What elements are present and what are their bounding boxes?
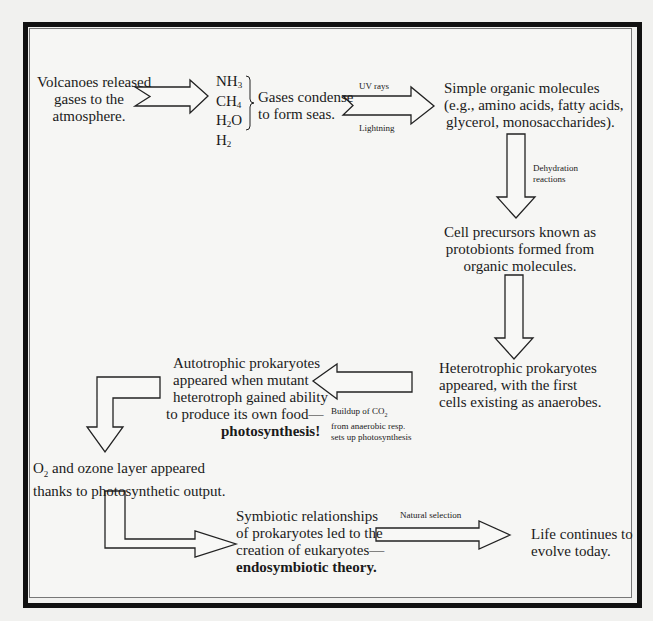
- node-text-line: organic molecules.: [440, 258, 600, 275]
- arrow-down-icon: [495, 275, 533, 359]
- notched-arrow-right-icon: [343, 87, 434, 124]
- label-dehydration: Dehydration reactions: [533, 163, 578, 185]
- gas-h2: H2: [216, 133, 242, 153]
- curly-brace-icon: [246, 75, 254, 131]
- node-text-line: Autotrophic prokaryotes: [166, 355, 328, 372]
- endosymbiotic-emphasis: endosymbiotic theory.: [236, 559, 364, 576]
- node-text-line: glycerol, monosaccharides).: [444, 114, 624, 131]
- node-text-line: cells existing as anaerobes.: [439, 394, 601, 411]
- label-lightning: Lightning: [359, 123, 395, 134]
- label-buildup-co2: Buildup of CO2 from anaerobic resp. sets…: [331, 406, 412, 443]
- node-text-line: of prokaryotes led to the: [236, 525, 364, 542]
- node-text-line: (e.g., amino acids, fatty acids,: [444, 97, 624, 114]
- label-natural-selection: Natural selection: [400, 510, 461, 521]
- node-text-line: creation of eukaryotes—: [236, 542, 364, 559]
- node-text-line: Gases condense: [258, 89, 353, 106]
- node-text-line: appeared when mutant: [166, 372, 328, 389]
- gas-h2o: H2O: [216, 113, 242, 133]
- node-text-line: to produce its own food—: [166, 406, 328, 423]
- node-text-line: Heterotrophic prokaryotes: [439, 360, 601, 377]
- node-text-line: evolve today.: [531, 543, 633, 560]
- gas-list: NH3 CH4 H2O H2: [216, 74, 242, 152]
- node-heterotrophic: Heterotrophic prokaryotes appeared, with…: [439, 360, 601, 411]
- node-protobionts: Cell precursors known as protobionts for…: [440, 224, 600, 275]
- node-autotrophic: Autotrophic prokaryotes appeared when mu…: [166, 355, 328, 440]
- node-simple-organic: Simple organic molecules (e.g., amino ac…: [444, 80, 624, 131]
- node-text-line: O2 and ozone layer appeared: [33, 460, 226, 483]
- node-text-line: gases to the: [37, 91, 141, 108]
- arrow-right-icon: [376, 521, 510, 549]
- node-text-line: atmosphere.: [37, 108, 141, 125]
- node-text-line: Symbiotic relationships: [236, 508, 364, 525]
- node-volcanoes: Volcanoes released gases to the atmosphe…: [37, 74, 141, 125]
- photosynthesis-emphasis: photosynthesis!: [166, 423, 328, 440]
- node-condense: Gases condense to form seas.: [258, 89, 353, 123]
- node-text-line: thanks to photosynthetic output.: [33, 483, 226, 500]
- gas-nh3: NH3: [216, 74, 242, 94]
- node-text-line: appeared, with the first: [439, 377, 601, 394]
- node-text-line: to form seas.: [258, 106, 353, 123]
- node-text-line: Simple organic molecules: [444, 80, 624, 97]
- node-ozone: O2 and ozone layer appeared thanks to ph…: [33, 460, 226, 500]
- arrow-down-icon: [497, 134, 535, 218]
- node-text-line: Volcanoes released: [37, 74, 141, 91]
- node-text-line: Cell precursors known as: [440, 224, 600, 241]
- bent-arrow-down-icon: [87, 377, 160, 452]
- node-text-line: protobionts formed from: [440, 241, 600, 258]
- gas-ch4: CH4: [216, 94, 242, 114]
- node-life-continues: Life continues to evolve today.: [531, 526, 633, 560]
- node-text-line: Life continues to: [531, 526, 633, 543]
- node-text-line: heterotroph gained ability: [166, 389, 328, 406]
- bent-arrow-right-icon: [105, 491, 236, 557]
- node-symbiotic: Symbiotic relationships of prokaryotes l…: [236, 508, 364, 576]
- label-uv-rays: UV rays: [359, 81, 389, 92]
